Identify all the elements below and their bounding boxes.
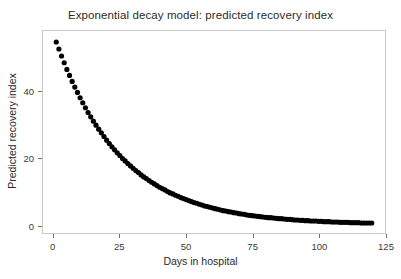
y-axis-tick-mark [38, 158, 42, 159]
y-axis-tick-mark [38, 91, 42, 92]
x-axis-tick-label: 125 [378, 241, 394, 252]
scatter-plot-svg [43, 31, 385, 233]
data-point [78, 95, 83, 100]
y-axis-title: Predicted recovery index [6, 56, 18, 206]
data-point [80, 100, 85, 105]
data-point [56, 46, 61, 51]
x-axis-tick-mark [53, 234, 54, 238]
x-axis-tick-label: 75 [247, 241, 258, 252]
plot-panel [42, 30, 386, 234]
data-point-group [54, 39, 375, 225]
x-axis-tick-mark [186, 234, 187, 238]
x-axis-tick-label: 0 [50, 241, 55, 252]
data-point [369, 220, 374, 225]
y-axis-tick-label: 0 [8, 220, 34, 231]
x-axis-tick-mark [119, 234, 120, 238]
x-axis-title: Days in hospital [0, 255, 401, 267]
data-point [72, 85, 77, 90]
x-axis-tick-mark [386, 234, 387, 238]
y-axis-tick-mark [38, 226, 42, 227]
data-point [62, 60, 67, 65]
data-point [75, 90, 80, 95]
x-axis-tick-label: 100 [311, 241, 327, 252]
chart-figure: Exponential decay model: predicted recov… [0, 0, 401, 279]
data-point [85, 110, 90, 115]
x-axis-tick-mark [253, 234, 254, 238]
x-axis-tick-label: 50 [181, 241, 192, 252]
data-point [70, 79, 75, 84]
data-point [54, 39, 59, 44]
data-point [64, 67, 69, 72]
data-point [88, 114, 93, 119]
data-point [59, 53, 64, 58]
data-point [83, 105, 88, 110]
x-axis-tick-mark [319, 234, 320, 238]
x-axis-tick-label: 25 [114, 241, 125, 252]
chart-title: Exponential decay model: predicted recov… [0, 9, 401, 21]
data-point [67, 73, 72, 78]
